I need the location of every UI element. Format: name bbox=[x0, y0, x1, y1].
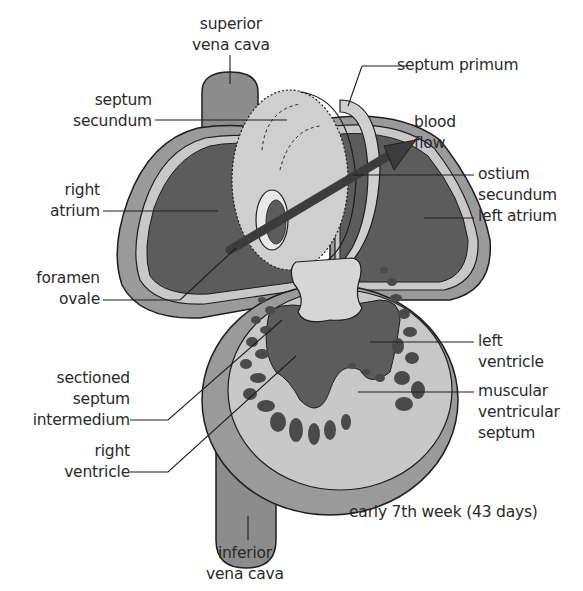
label-right-atrium: right atrium bbox=[50, 180, 100, 222]
label-blood-flow: blood flow bbox=[414, 112, 456, 154]
label-line: intermedium bbox=[33, 410, 130, 431]
label-line: superior bbox=[192, 14, 270, 35]
label-line: secundum bbox=[478, 185, 557, 206]
label-left-atrium: left atrium bbox=[478, 206, 557, 227]
label-muscular-ventricular-septum: muscular ventricular septum bbox=[478, 381, 560, 444]
label-line: septum bbox=[73, 90, 152, 111]
label-line: flow bbox=[414, 133, 456, 154]
label-sectioned-septum-intermedium: sectioned septum intermedium bbox=[33, 368, 130, 431]
label-septum-primum: septum primum bbox=[397, 55, 518, 76]
label-right-ventricle: right ventricle bbox=[64, 441, 130, 483]
label-line: left atrium bbox=[478, 206, 557, 227]
label-line: ventricle bbox=[64, 462, 130, 483]
label-line: atrium bbox=[50, 201, 100, 222]
caption-text: early 7th week (43 days) bbox=[349, 502, 538, 523]
label-line: ostium bbox=[478, 164, 557, 185]
label-superior-vena-cava: superior vena cava bbox=[192, 14, 270, 56]
label-line: foramen bbox=[36, 268, 100, 289]
label-inferior-vena-cava: inferior vena cava bbox=[206, 543, 284, 585]
label-line: ovale bbox=[36, 289, 100, 310]
label-line: vena cava bbox=[206, 564, 284, 585]
label-septum-secundum: septum secundum bbox=[73, 90, 152, 132]
label-foramen-ovale: foramen ovale bbox=[36, 268, 100, 310]
label-line: septum bbox=[33, 389, 130, 410]
figure-caption: early 7th week (43 days) bbox=[349, 502, 538, 523]
label-line: ventricle bbox=[478, 352, 544, 373]
label-line: sectioned bbox=[33, 368, 130, 389]
label-line: secundum bbox=[73, 111, 152, 132]
label-line: right bbox=[64, 441, 130, 462]
label-line: muscular bbox=[478, 381, 560, 402]
label-ostium-secundum: ostium secundum bbox=[478, 164, 557, 206]
label-line: inferior bbox=[206, 543, 284, 564]
label-left-ventricle: left ventricle bbox=[478, 331, 544, 373]
label-line: ventricular bbox=[478, 402, 560, 423]
endocardial-cushion bbox=[291, 258, 362, 322]
label-line: septum bbox=[478, 423, 560, 444]
label-line: vena cava bbox=[192, 35, 270, 56]
label-line: blood bbox=[414, 112, 456, 133]
label-line: right bbox=[50, 180, 100, 201]
heart-development-diagram: superior vena cava septum secundum right… bbox=[0, 0, 583, 591]
label-line: septum primum bbox=[397, 55, 518, 76]
label-line: left bbox=[478, 331, 544, 352]
